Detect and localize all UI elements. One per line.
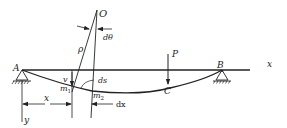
beam-deflection-diagram: O dθ ρ A B C P x y v ds m1 m2 x dx [0, 0, 287, 128]
label-y-axis: y [23, 115, 30, 125]
ds-leader-line [81, 80, 94, 88]
label-dx: dx [116, 100, 126, 109]
label-c: C [164, 86, 171, 96]
label-d-theta: dθ [103, 33, 113, 42]
pin-support-b [213, 70, 231, 84]
label-b: B [216, 60, 224, 70]
label-o: O [99, 8, 107, 19]
label-x-axis: x [267, 59, 272, 69]
label-a: A [12, 63, 20, 73]
label-x-dimension: x [44, 93, 49, 103]
label-p: P [171, 49, 179, 59]
label-v: v [63, 75, 68, 84]
label-rho: ρ [77, 44, 84, 54]
d-theta-arrow-left [77, 26, 89, 29]
deflection-curve [22, 70, 222, 93]
label-ds: ds [98, 76, 107, 85]
